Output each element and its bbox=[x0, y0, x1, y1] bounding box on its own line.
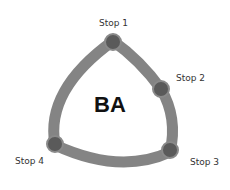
stop-2-label: Stop 2 bbox=[176, 73, 205, 83]
stop-1-marker[interactable] bbox=[105, 34, 121, 50]
stop-1-label: Stop 1 bbox=[99, 18, 128, 28]
center-label: BA bbox=[94, 92, 126, 118]
route-diagram: Stop 1 Stop 2 Stop 3 Stop 4 BA bbox=[0, 0, 230, 190]
stop-3-marker[interactable] bbox=[162, 142, 178, 158]
stop-4-label: Stop 4 bbox=[15, 156, 44, 166]
stop-2-marker[interactable] bbox=[153, 81, 169, 97]
stop-3-label: Stop 3 bbox=[190, 157, 219, 167]
stop-4-marker[interactable] bbox=[47, 136, 63, 152]
